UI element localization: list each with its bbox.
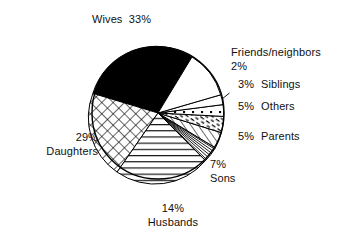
slice-label-daughters-name: Daughters bbox=[10, 144, 98, 158]
leader-lines bbox=[222, 93, 230, 99]
slice-label-friends-neighbors-value: 2% bbox=[231, 59, 321, 73]
slice-label-friends-neighbors: Friends/neighbors 2% bbox=[231, 45, 321, 73]
pie-slices bbox=[88, 46, 224, 184]
slice-label-friends-neighbors-name: Friends/neighbors bbox=[231, 45, 321, 59]
slice-label-sons: 7% Sons bbox=[210, 157, 235, 185]
slice-label-siblings-name: Siblings bbox=[261, 78, 300, 90]
slice-label-siblings: 3%Siblings bbox=[238, 78, 300, 91]
slice-label-parents-value: 5% bbox=[238, 130, 254, 142]
slice-label-others: 5%Others bbox=[238, 100, 295, 113]
slice-label-sons-name: Sons bbox=[210, 171, 235, 185]
slice-label-others-name: Others bbox=[261, 100, 295, 112]
slice-label-siblings-value: 3% bbox=[238, 78, 254, 90]
slice-label-daughters-value: 29% bbox=[10, 130, 98, 144]
slice-label-sons-value: 7% bbox=[210, 157, 235, 171]
slice-label-daughters: 29% Daughters bbox=[10, 130, 98, 158]
slice-label-others-value: 5% bbox=[238, 100, 254, 112]
slice-label-husbands: 14% Husbands bbox=[123, 201, 223, 229]
slice-label-parents-name: Parents bbox=[261, 130, 300, 142]
slice-label-wives-value: 33% bbox=[129, 13, 151, 25]
slice-label-parents: 5%Parents bbox=[238, 130, 300, 143]
slice-label-husbands-name: Husbands bbox=[123, 215, 223, 229]
pie-chart-figure: Wives 33% Friends/neighbors 2% 3%Sibling… bbox=[0, 0, 347, 241]
slice-label-husbands-value: 14% bbox=[123, 201, 223, 215]
slice-label-wives: Wives 33% bbox=[92, 13, 151, 26]
slice-label-wives-name: Wives bbox=[92, 13, 122, 25]
